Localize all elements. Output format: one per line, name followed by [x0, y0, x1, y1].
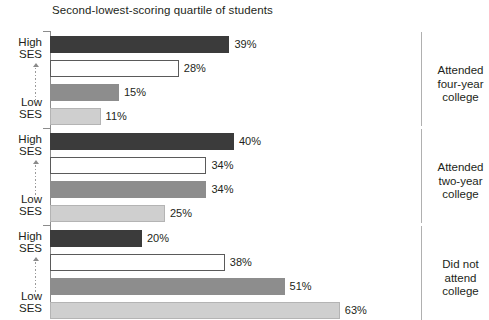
category-label-line: college [432, 91, 489, 105]
category-bracket-rule [421, 129, 422, 223]
bar [50, 302, 340, 319]
axis-label-low-ses: LowSES [0, 97, 42, 120]
bar [50, 60, 179, 77]
category-bracket-rule [421, 32, 422, 126]
axis-label-high-ses: HighSES [0, 231, 42, 254]
bar-value-label: 39% [234, 36, 256, 53]
bar-value-label: 34% [211, 181, 233, 198]
category-label-line: two-year [432, 175, 489, 189]
bar-value-label: 25% [170, 205, 192, 222]
axis-label-low-ses: LowSES [0, 194, 42, 217]
bar-value-label: 63% [345, 302, 367, 319]
category-bracket-rule [421, 226, 422, 320]
axis-label-line: High [0, 134, 42, 146]
bar [50, 254, 225, 271]
bar [50, 84, 119, 101]
bar [50, 230, 142, 247]
category-label-line: Did not [432, 258, 489, 272]
ses-gradient-arrow-icon [31, 257, 40, 289]
ses-gradient-arrow-icon [31, 160, 40, 192]
bar-value-label: 11% [106, 108, 127, 125]
category-label-line: four-year [432, 78, 489, 92]
arrow-head-icon [33, 257, 39, 261]
bar-value-label: 15% [124, 84, 146, 101]
bar-value-label: 28% [184, 60, 206, 77]
bar-value-label: 51% [290, 278, 312, 295]
arrow-head-icon [33, 63, 39, 67]
bar [50, 278, 285, 295]
bar [50, 181, 206, 198]
axis-label-low-ses: LowSES [0, 291, 42, 314]
ses-gradient-arrow-icon [31, 63, 40, 95]
category-label-line: college [432, 188, 489, 202]
axis-label-line: SES [0, 49, 42, 61]
axis-label-high-ses: HighSES [0, 134, 42, 157]
bar [50, 108, 101, 125]
category-label-line: Attended [432, 64, 489, 78]
category-label-line: attend [432, 272, 489, 286]
axis-tick [43, 128, 50, 129]
bar-value-label: 38% [230, 254, 252, 271]
arrow-shaft [35, 68, 36, 100]
chart-title: Second-lowest-scoring quartile of studen… [52, 4, 273, 16]
axis-label-line: SES [0, 146, 42, 158]
bar-value-label: 20% [147, 230, 169, 247]
category-label-line: college [432, 285, 489, 299]
arrow-head-icon [33, 160, 39, 164]
bar [50, 36, 229, 53]
axis-label-line: High [0, 231, 42, 243]
axis-tick [43, 225, 50, 226]
axis-label-line: SES [0, 303, 42, 315]
bar-value-label: 34% [211, 157, 233, 174]
bar [50, 157, 206, 174]
bar [50, 205, 165, 222]
arrow-shaft [35, 262, 36, 294]
axis-label-line: SES [0, 206, 42, 218]
category-label: Attendedfour-yearcollege [432, 64, 489, 105]
axis-label-line: High [0, 37, 42, 49]
axis-tick [43, 31, 50, 32]
axis-label-line: SES [0, 243, 42, 255]
bar [50, 133, 234, 150]
axis-label-line: SES [0, 109, 42, 121]
axis-label-high-ses: HighSES [0, 37, 42, 60]
arrow-shaft [35, 165, 36, 197]
category-label: Did notattendcollege [432, 258, 489, 299]
category-label-line: Attended [432, 161, 489, 175]
category-label: Attendedtwo-yearcollege [432, 161, 489, 202]
bar-value-label: 40% [239, 133, 261, 150]
